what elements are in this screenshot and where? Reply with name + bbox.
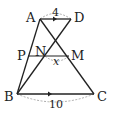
label-c: C bbox=[97, 89, 107, 104]
label-b: B bbox=[4, 89, 14, 104]
geometry-figure: A D P N M B C 4 x 10 bbox=[0, 0, 113, 114]
measure-ad: 4 bbox=[52, 6, 59, 19]
parallel-arrow-icon bbox=[48, 92, 52, 97]
measure-bc: 10 bbox=[49, 98, 63, 111]
label-p: P bbox=[17, 48, 26, 63]
label-d: D bbox=[74, 10, 84, 25]
measure-nm: x bbox=[53, 55, 60, 68]
label-a: A bbox=[25, 10, 36, 25]
label-m: M bbox=[71, 48, 84, 63]
label-n: N bbox=[35, 44, 46, 59]
